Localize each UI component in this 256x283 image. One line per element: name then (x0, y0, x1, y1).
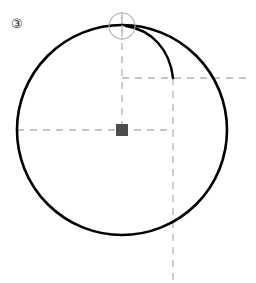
figure-canvas: ③ (0, 0, 256, 283)
figure-number-label: ③ (11, 17, 23, 30)
diagram-svg (0, 0, 256, 283)
construction-guides (17, 17, 246, 281)
center-square-marker (116, 124, 128, 136)
